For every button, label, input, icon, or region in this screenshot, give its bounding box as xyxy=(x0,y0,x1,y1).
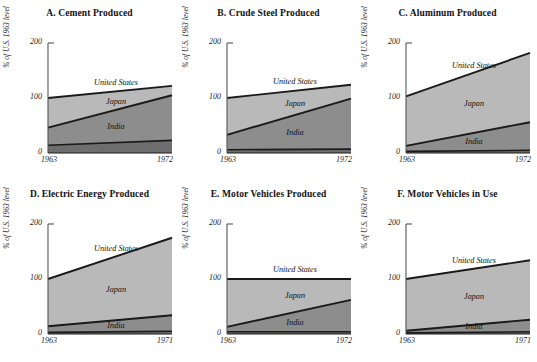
chart-panel: E. Motor Vehicles Produced% of U.S. 1963… xyxy=(179,181,358,362)
x-tick-label-start: 1963 xyxy=(41,155,57,164)
y-tick-label: 100 xyxy=(376,273,400,282)
y-tick-label: 0 xyxy=(376,328,400,337)
chart-panel: C. Aluminum Produced% of U.S. 1963 level… xyxy=(358,0,537,181)
y-tick-label: 100 xyxy=(18,273,42,282)
y-tick-label: 200 xyxy=(376,37,400,46)
x-tick-label-end: 1972 xyxy=(515,155,531,164)
y-tick-label: 200 xyxy=(197,37,221,46)
x-tick-label-start: 1963 xyxy=(399,336,415,345)
x-tick-label-start: 1963 xyxy=(220,336,236,345)
y-tick-label: 0 xyxy=(18,147,42,156)
y-tick-label: 200 xyxy=(197,218,221,227)
chart-panel: F. Motor Vehicles in Use% of U.S. 1963 l… xyxy=(358,181,537,362)
united-states-band xyxy=(406,260,530,330)
chart-panel: B. Crude Steel Produced% of U.S. 1963 le… xyxy=(179,0,358,181)
y-tick-label: 200 xyxy=(18,218,42,227)
united-states-band xyxy=(48,238,172,327)
india-line xyxy=(48,331,172,332)
chart-panel: D. Electric Energy Produced% of U.S. 196… xyxy=(0,181,179,362)
x-tick-label-start: 1963 xyxy=(220,155,236,164)
y-tick-label: 200 xyxy=(18,37,42,46)
x-tick-label-end: 1971 xyxy=(515,336,531,345)
india-line xyxy=(406,332,530,333)
y-tick-label: 100 xyxy=(197,92,221,101)
india-line xyxy=(406,150,530,151)
multi-panel-figure: A. Cement Produced% of U.S. 1963 level01… xyxy=(0,0,537,362)
x-tick-label-end: 1972 xyxy=(336,336,352,345)
x-tick-label-end: 1972 xyxy=(336,155,352,164)
x-tick-label-end: 1971 xyxy=(157,336,173,345)
y-tick-label: 0 xyxy=(18,328,42,337)
y-tick-label: 100 xyxy=(18,92,42,101)
y-tick-label: 200 xyxy=(376,218,400,227)
y-tick-label: 100 xyxy=(376,92,400,101)
x-tick-label-end: 1972 xyxy=(157,155,173,164)
y-tick-label: 0 xyxy=(197,328,221,337)
x-tick-label-start: 1963 xyxy=(399,155,415,164)
x-tick-label-start: 1963 xyxy=(41,336,57,345)
india-line xyxy=(227,149,351,150)
y-tick-label: 100 xyxy=(197,273,221,282)
y-tick-label: 0 xyxy=(376,147,400,156)
chart-panel: A. Cement Produced% of U.S. 1963 level01… xyxy=(0,0,179,181)
y-tick-label: 0 xyxy=(197,147,221,156)
